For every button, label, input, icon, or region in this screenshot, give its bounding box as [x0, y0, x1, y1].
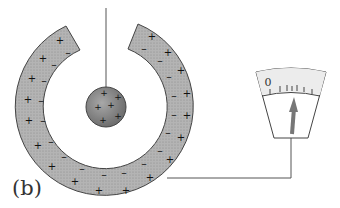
svg-text:+: + — [183, 110, 191, 121]
dial-zero-label: 0 — [265, 76, 272, 89]
svg-text:–: – — [38, 94, 44, 107]
svg-text:+: + — [34, 140, 42, 151]
svg-text:–: – — [171, 89, 177, 102]
svg-text:–: – — [157, 144, 163, 157]
svg-text:+: + — [177, 132, 185, 143]
svg-text:+: + — [56, 35, 64, 46]
svg-text:+: + — [24, 94, 32, 105]
svg-text:+: + — [71, 176, 79, 187]
svg-text:–: – — [61, 150, 67, 163]
svg-text:+: + — [48, 161, 56, 172]
svg-text:+: + — [25, 115, 33, 126]
svg-text:–: – — [41, 74, 47, 87]
svg-text:+: + — [114, 111, 122, 121]
svg-text:–: – — [65, 46, 71, 59]
svg-text:–: – — [121, 166, 127, 179]
diagram-canvas: ++ ++ ++ +++ +++ +++ +++ +++ +++ ––– –––… — [0, 0, 340, 208]
svg-text:+: + — [166, 154, 174, 165]
svg-text:–: – — [48, 135, 54, 148]
svg-text:–: – — [165, 126, 171, 139]
svg-text:–: – — [166, 70, 172, 83]
electrometer: 0 — [256, 68, 326, 138]
svg-text:+: + — [39, 53, 47, 64]
svg-text:+: + — [114, 92, 122, 102]
svg-text:–: – — [157, 54, 163, 67]
svg-text:+: + — [107, 100, 115, 110]
svg-text:+: + — [95, 185, 103, 196]
svg-text:+: + — [164, 47, 172, 58]
svg-text:+: + — [146, 172, 154, 183]
svg-text:+: + — [28, 73, 36, 84]
svg-text:–: – — [171, 108, 177, 121]
svg-text:–: – — [51, 58, 57, 71]
svg-text:–: – — [101, 168, 107, 181]
svg-text:+: + — [94, 102, 102, 112]
svg-text:+: + — [183, 88, 191, 99]
svg-text:+: + — [177, 65, 185, 76]
panel-label: (b) — [12, 176, 42, 200]
svg-text:+: + — [100, 88, 108, 98]
svg-text:+: + — [148, 31, 156, 42]
svg-text:–: – — [141, 157, 147, 170]
svg-text:+: + — [122, 185, 130, 196]
svg-text:+: + — [99, 115, 107, 125]
svg-text:–: – — [141, 42, 147, 55]
svg-text:–: – — [79, 162, 85, 175]
ground-wire — [167, 138, 291, 178]
svg-text:–: – — [40, 114, 46, 127]
